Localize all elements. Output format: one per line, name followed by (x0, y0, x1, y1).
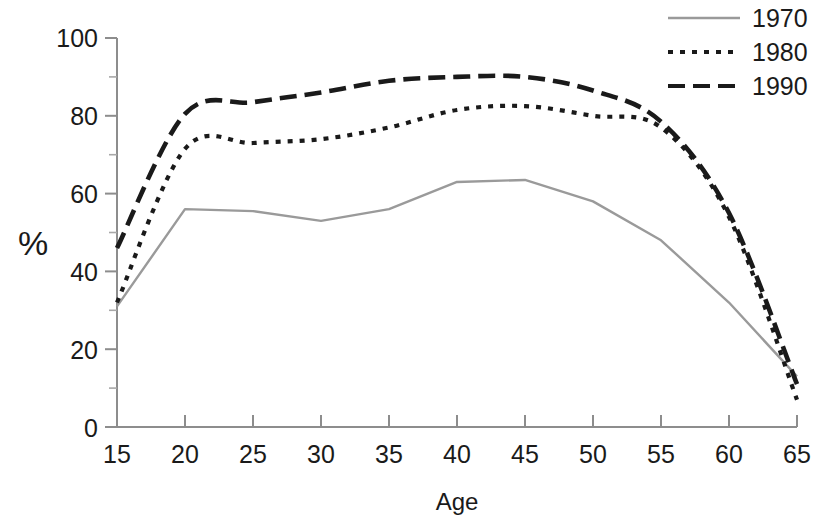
y-tick-label-100: 100 (56, 24, 98, 52)
series-line-1980 (117, 106, 797, 400)
legend-label-1970: 1970 (752, 4, 808, 32)
y-axis-minor-ticks (109, 77, 117, 388)
x-axis-ticks (117, 415, 797, 427)
x-tick-label-65: 65 (783, 440, 811, 468)
x-tick-label-35: 35 (375, 440, 403, 468)
x-tick-label-45: 45 (511, 440, 539, 468)
legend: 1970 1980 1990 (668, 4, 808, 100)
y-axis-title: % (18, 224, 48, 262)
x-tick-label-20: 20 (171, 440, 199, 468)
x-tick-label-60: 60 (715, 440, 743, 468)
x-tick-label-40: 40 (443, 440, 471, 468)
x-tick-label-50: 50 (579, 440, 607, 468)
x-tick-label-55: 55 (647, 440, 675, 468)
legend-label-1990: 1990 (752, 72, 808, 100)
y-tick-label-60: 60 (70, 180, 98, 208)
x-tick-label-30: 30 (307, 440, 335, 468)
series-line-1990 (117, 76, 797, 384)
x-axis-title: Age (436, 488, 479, 515)
chart-canvas: 100 80 60 40 20 0 15 20 25 30 35 40 45 5… (0, 0, 826, 528)
x-tick-label-15: 15 (103, 440, 131, 468)
series-line-1970 (117, 180, 797, 376)
y-tick-label-0: 0 (84, 414, 98, 442)
y-tick-label-20: 20 (70, 336, 98, 364)
chart-figure: 100 80 60 40 20 0 15 20 25 30 35 40 45 5… (0, 0, 826, 528)
legend-label-1980: 1980 (752, 38, 808, 66)
y-tick-label-80: 80 (70, 102, 98, 130)
y-tick-label-40: 40 (70, 258, 98, 286)
x-tick-label-25: 25 (239, 440, 267, 468)
